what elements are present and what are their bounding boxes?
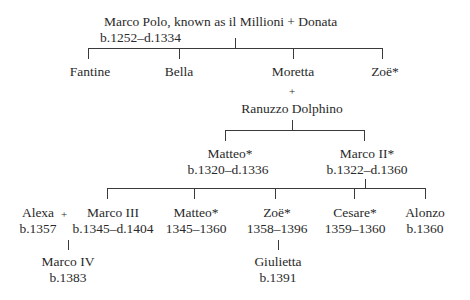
drop-alonzo <box>425 188 426 199</box>
person-zoe: Zoë* <box>371 64 399 80</box>
drop-matteo <box>225 130 226 141</box>
drop-marco-ii <box>364 130 365 141</box>
person-alexa-dates: b.1357 <box>19 221 56 237</box>
giulietta-stem-line <box>278 240 279 250</box>
drop-marco-iii <box>107 188 108 199</box>
marco-ii-stem-line <box>365 179 366 188</box>
person-ranuzzo: Ranuzzo Dolphino <box>241 101 343 117</box>
root-name: Marco Polo, known as il Millioni + Donat… <box>104 14 337 30</box>
person-marco-iii-dates: b.1345–d.1404 <box>73 221 154 237</box>
person-bella: Bella <box>165 64 194 80</box>
drop-matteo-2 <box>194 188 195 199</box>
drop-cesare <box>354 188 355 199</box>
person-matteo-1: Matteo* <box>208 146 253 162</box>
person-alonzo: Alonzo <box>405 205 445 221</box>
person-giulietta: Giulietta <box>254 254 301 270</box>
person-marco-iv-dates: b.1383 <box>49 270 86 286</box>
person-alonzo-dates: b.1360 <box>406 221 443 237</box>
alexa-marriage-plus: + <box>61 206 67 222</box>
gen1-sibling-line <box>88 48 383 49</box>
marco-iv-stem-line <box>68 240 69 250</box>
ranuzzo-stem-line <box>292 120 293 130</box>
person-cesare: Cesare* <box>333 205 376 221</box>
gen3-sibling-line <box>107 188 426 189</box>
person-marco-iv: Marco IV <box>42 254 95 270</box>
drop-fantine <box>88 48 89 59</box>
drop-bella <box>179 48 180 59</box>
person-zoe-2: Zoë* <box>263 205 291 221</box>
gen2-sibling-line <box>225 130 365 131</box>
drop-zoe <box>382 48 383 59</box>
drop-zoe-2 <box>275 188 276 199</box>
person-marco-ii: Marco II* <box>340 146 394 162</box>
person-matteo-1-dates: b.1320–d.1336 <box>188 162 269 178</box>
root-dates: b.1252–d.1334 <box>100 30 181 46</box>
person-matteo-2-dates: 1345–1360 <box>166 221 227 237</box>
person-marco-iii: Marco III <box>87 205 139 221</box>
person-alexa: Alexa <box>22 205 54 221</box>
person-zoe-2-dates: 1358–1396 <box>247 221 308 237</box>
marriage-plus: + <box>289 83 295 99</box>
root-stem-line <box>235 38 236 48</box>
person-giulietta-dates: b.1391 <box>259 270 296 286</box>
drop-moretta <box>293 48 294 59</box>
person-cesare-dates: 1359–1360 <box>325 221 386 237</box>
person-moretta: Moretta <box>272 64 315 80</box>
person-matteo-2: Matteo* <box>174 205 219 221</box>
person-marco-ii-dates: b.1322–d.1360 <box>327 162 408 178</box>
person-fantine: Fantine <box>70 64 111 80</box>
